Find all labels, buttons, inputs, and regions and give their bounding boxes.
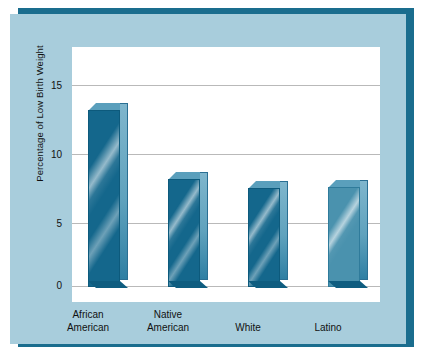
bar-side-face [360, 180, 368, 280]
gridline-15 [72, 85, 380, 86]
bar-side-face [120, 103, 128, 280]
x-tick-line-1: Native [113, 308, 223, 321]
y-tick-label-0: 0 [36, 280, 62, 291]
chart-panel: Percentage of Low Birth Weight 15 10 5 0 [10, 14, 406, 344]
bar-latino [328, 180, 368, 287]
y-axis-title: Percentage of Low Birth Weight [34, 14, 45, 214]
bar-native-american [168, 172, 208, 287]
plot-area [72, 47, 380, 302]
bar-front-face [328, 187, 360, 287]
bar-side-face [200, 172, 208, 280]
bar-white [248, 181, 288, 287]
x-tick-line-1: Latino [273, 321, 383, 334]
y-tick-label-5: 5 [36, 218, 62, 229]
y-tick-label-10: 10 [36, 149, 62, 160]
bar-front-face [88, 110, 120, 287]
x-tick-label-latino: Latino [273, 321, 383, 334]
bar-african-american [88, 103, 128, 287]
bar-front-face [168, 179, 200, 287]
bar-front-face [248, 188, 280, 287]
bar-chart-figure: Percentage of Low Birth Weight 15 10 5 0 [0, 0, 421, 355]
y-tick-label-15: 15 [36, 80, 62, 91]
bar-side-face [280, 181, 288, 280]
